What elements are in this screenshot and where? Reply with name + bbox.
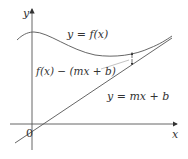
- asymptote-label: y = mx + b: [107, 91, 169, 102]
- origin-label: 0: [26, 128, 33, 139]
- y-axis-label: y: [23, 8, 29, 19]
- slant-asymptote-diagram: y x 0 y = f(x) f(x) − (mx + b) y = mx + …: [0, 0, 188, 159]
- gap-label: f(x) − (mx + b): [36, 66, 116, 77]
- x-axis-label: x: [172, 129, 178, 140]
- function-label: y = f(x): [67, 29, 108, 40]
